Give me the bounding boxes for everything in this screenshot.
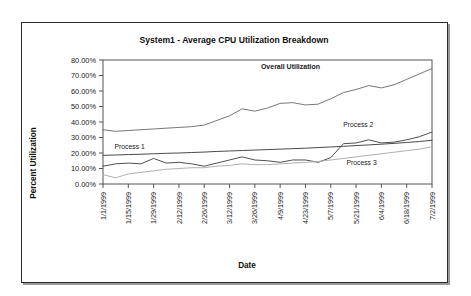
y-axis-title: Percent Utilization bbox=[29, 127, 38, 198]
annotation-process-3: Process 3 bbox=[346, 159, 376, 166]
x-tick-label: 3/26/1999 bbox=[250, 192, 259, 224]
x-tick-label: 4/23/1999 bbox=[301, 192, 310, 224]
series-line-process-3 bbox=[103, 147, 432, 178]
series-lines bbox=[103, 69, 432, 178]
x-tick-label: 1/29/1999 bbox=[149, 192, 158, 224]
y-axis-tick-labels: 0.00%10.00%20.00%30.00%40.00%50.00%60.00… bbox=[71, 56, 96, 189]
x-axis-tick-labels: 1/1/19991/15/19991/29/19992/12/19992/26/… bbox=[99, 192, 437, 224]
y-tick-label: 10.00% bbox=[71, 164, 96, 173]
y-tick-label: 20.00% bbox=[71, 149, 96, 158]
annotation-process-2: Process 2 bbox=[343, 121, 373, 128]
chart-title: System1 - Average CPU Utilization Breakd… bbox=[140, 35, 329, 45]
series-annotations: Overall UtilizationProcess 1Process 2Pro… bbox=[115, 63, 377, 166]
x-axis-title: Date bbox=[238, 261, 256, 270]
x-tick-label: 6/4/1999 bbox=[377, 192, 386, 220]
x-tick-label: 3/12/1999 bbox=[225, 192, 234, 224]
x-tick-label: 1/15/1999 bbox=[124, 192, 133, 224]
annotation-overall-utilization: Overall Utilization bbox=[261, 63, 320, 70]
plot-area-frame bbox=[103, 60, 432, 184]
x-tick-label: 2/26/1999 bbox=[200, 192, 209, 224]
annotation-process-1: Process 1 bbox=[115, 143, 145, 150]
y-tick-label: 60.00% bbox=[71, 87, 96, 96]
y-tick-label: 40.00% bbox=[71, 118, 96, 127]
x-tick-label: 6/18/1999 bbox=[402, 192, 411, 224]
screenshot-root: System1 - Average CPU Utilization Breakd… bbox=[0, 0, 471, 296]
series-line-overall-utilization bbox=[103, 69, 432, 132]
x-tick-label: 4/9/1999 bbox=[276, 192, 285, 220]
x-tick-label: 5/7/1999 bbox=[326, 192, 335, 220]
y-tick-label: 30.00% bbox=[71, 133, 96, 142]
y-tick-label: 50.00% bbox=[71, 102, 96, 111]
x-tick-label: 1/1/1999 bbox=[99, 192, 108, 220]
x-axis-tick-marks bbox=[103, 184, 432, 188]
x-tick-label: 5/21/1999 bbox=[352, 192, 361, 224]
x-tick-label: 7/2/1999 bbox=[428, 192, 437, 220]
x-tick-label: 2/12/1999 bbox=[175, 192, 184, 224]
y-tick-label: 0.00% bbox=[75, 180, 96, 189]
chart-object-frame: System1 - Average CPU Utilization Breakd… bbox=[21, 22, 448, 283]
y-tick-label: 80.00% bbox=[71, 56, 96, 65]
y-tick-label: 70.00% bbox=[71, 71, 96, 80]
cpu-utilization-chart: System1 - Average CPU Utilization Breakd… bbox=[22, 23, 446, 281]
y-axis-tick-marks bbox=[99, 60, 103, 184]
